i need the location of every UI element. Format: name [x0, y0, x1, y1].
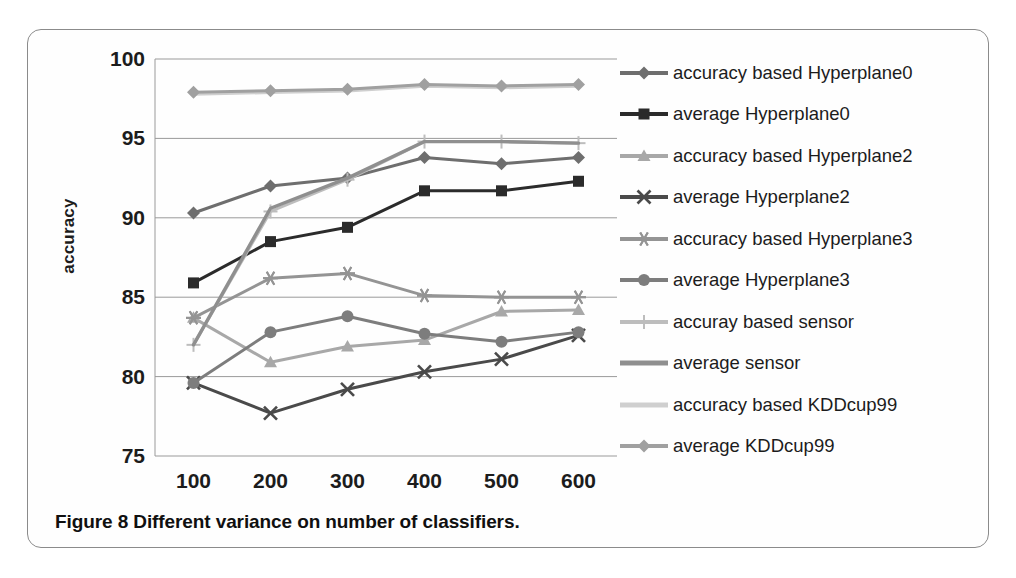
legend-marker — [637, 232, 652, 245]
legend-item[interactable]: average Hyperplane2 — [618, 177, 990, 219]
series-data-point — [573, 176, 584, 187]
asterisk-marker-icon — [618, 227, 670, 251]
figure-caption: Figure 8 Different variance on number of… — [55, 511, 520, 533]
figure-frame: accuracy 7580859095100 10020030040050060… — [27, 29, 989, 548]
diamond-marker-icon — [618, 434, 670, 458]
series-data-point — [342, 222, 353, 233]
series-data-point — [571, 291, 586, 304]
series-data-point — [264, 84, 277, 97]
triangle-marker-icon — [618, 144, 670, 168]
legend-item-label: average Hyperplane2 — [670, 186, 850, 208]
series-line — [194, 181, 579, 283]
legend-marker — [639, 109, 650, 120]
series-data-point — [572, 78, 585, 91]
legend-item-label: average Hyperplane0 — [670, 103, 850, 125]
series-data-point — [265, 236, 276, 247]
chart-legend: accuracy based Hyperplane0average Hyperp… — [618, 52, 990, 467]
legend-item[interactable]: average Hyperplane0 — [618, 94, 990, 136]
series-data-point — [495, 79, 508, 92]
series-data-point — [418, 151, 431, 164]
diamond-marker-icon — [618, 61, 670, 85]
legend-item[interactable]: average KDDcup99 — [618, 426, 990, 468]
series-data-point — [496, 185, 507, 196]
series-data-point — [572, 151, 585, 164]
legend-marker — [637, 315, 651, 329]
series-data-point — [187, 86, 200, 99]
chart-series — [194, 142, 579, 345]
legend-item-label: accuracy based Hyperplane0 — [670, 62, 913, 84]
series-data-point — [496, 336, 508, 348]
legend-item-label: average sensor — [670, 352, 801, 374]
series-data-point — [341, 83, 354, 96]
series-data-point — [263, 272, 278, 285]
plus-marker-icon — [618, 310, 670, 334]
series-data-point — [188, 377, 200, 389]
legend-item-label: average KDDcup99 — [670, 435, 834, 457]
series-line — [194, 335, 579, 413]
chart-series — [186, 267, 586, 324]
line-marker-icon — [618, 351, 670, 375]
chart-series — [187, 303, 585, 367]
series-data-point — [419, 185, 430, 196]
series-data-point — [340, 267, 355, 280]
legend-item-label: accuracy based KDDcup99 — [670, 394, 897, 416]
series-data-point — [342, 310, 354, 322]
series-data-point — [418, 78, 431, 91]
legend-item[interactable]: average sensor — [618, 343, 990, 385]
x-marker-icon — [618, 185, 670, 209]
series-line — [194, 157, 579, 213]
series-line — [194, 142, 579, 345]
legend-item[interactable]: accuracy based Hyperplane0 — [618, 52, 990, 94]
legend-marker — [638, 274, 650, 286]
legend-item-label: accuray based sensor — [670, 311, 854, 333]
legend-marker — [638, 440, 651, 453]
series-data-point — [265, 326, 277, 338]
square-marker-icon — [618, 102, 670, 126]
legend-item[interactable]: accuracy based Hyperplane2 — [618, 135, 990, 177]
legend-item-label: average Hyperplane3 — [670, 269, 850, 291]
series-data-point — [495, 157, 508, 170]
legend-marker — [638, 66, 651, 79]
series-data-point — [264, 180, 277, 193]
circle-marker-icon — [618, 268, 670, 292]
legend-item[interactable]: accuray based sensor — [618, 301, 990, 343]
series-layer — [186, 78, 586, 420]
series-data-point — [188, 277, 199, 288]
line-marker-icon — [618, 393, 670, 417]
legend-item[interactable]: average Hyperplane3 — [618, 260, 990, 302]
series-data-point — [573, 326, 585, 338]
series-data-point — [494, 291, 509, 304]
legend-item[interactable]: accuracy based Hyperplane3 — [618, 218, 990, 260]
series-data-point — [417, 289, 432, 302]
legend-item-label: accuracy based Hyperplane2 — [670, 145, 913, 167]
legend-item-label: accuracy based Hyperplane3 — [670, 228, 913, 250]
legend-item[interactable]: accuracy based KDDcup99 — [618, 384, 990, 426]
series-data-point — [419, 328, 431, 340]
